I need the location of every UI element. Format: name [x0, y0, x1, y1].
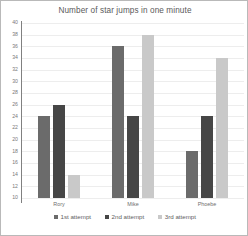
y-axis-tick-label: 20	[0, 137, 18, 142]
bar	[112, 46, 124, 198]
gridline	[22, 93, 244, 94]
gridline	[22, 23, 244, 24]
chart-title: Number of star jumps in one minute	[1, 6, 248, 15]
chart-legend: 1st attempt2nd attempt3rd attempt	[1, 213, 248, 220]
y-axis-tick-label: 24	[0, 114, 18, 119]
y-axis-tick-label: 10	[0, 195, 18, 200]
bar	[186, 151, 198, 198]
legend-label: 3rd attempt	[165, 213, 196, 220]
y-axis-tick-label: 22	[0, 125, 18, 130]
gridline	[22, 35, 244, 36]
y-axis-tick-label: 18	[0, 149, 18, 154]
bar	[127, 116, 139, 198]
gridline	[22, 198, 244, 199]
y-axis-tick-label: 12	[0, 184, 18, 189]
bar	[68, 175, 80, 198]
gridline	[22, 70, 244, 71]
legend-label: 1st attempt	[60, 213, 91, 220]
y-axis-tick-label: 14	[0, 172, 18, 177]
legend-item[interactable]: 1st attempt	[54, 213, 91, 220]
y-axis-tick-label: 32	[0, 67, 18, 72]
legend-swatch-icon	[54, 215, 58, 219]
bar	[142, 35, 154, 198]
y-axis-tick-label: 26	[0, 102, 18, 107]
y-axis-tick-label: 16	[0, 160, 18, 165]
bar	[201, 116, 213, 198]
gridline	[22, 58, 244, 59]
legend-swatch-icon	[158, 215, 162, 219]
bar-chart: Number of star jumps in one minute 10121…	[0, 0, 248, 236]
y-axis-tick-label: 38	[0, 32, 18, 37]
x-axis-category-label: Phoebe	[170, 201, 244, 207]
x-axis-category-label: Rory	[22, 201, 96, 207]
y-axis-tick-label: 28	[0, 90, 18, 95]
y-axis-tick-label: 34	[0, 55, 18, 60]
bar	[53, 105, 65, 198]
y-axis-tick-label: 30	[0, 79, 18, 84]
bar	[216, 58, 228, 198]
y-axis-tick-label: 36	[0, 44, 18, 49]
legend-swatch-icon	[105, 215, 109, 219]
legend-item[interactable]: 3rd attempt	[158, 213, 196, 220]
gridline	[22, 81, 244, 82]
bar	[38, 116, 50, 198]
legend-item[interactable]: 2nd attempt	[105, 213, 144, 220]
plot-area	[22, 23, 244, 198]
x-axis-category-label: Mike	[96, 201, 170, 207]
legend-label: 2nd attempt	[112, 213, 145, 220]
y-axis-tick-label: 40	[0, 20, 18, 25]
gridline	[22, 46, 244, 47]
